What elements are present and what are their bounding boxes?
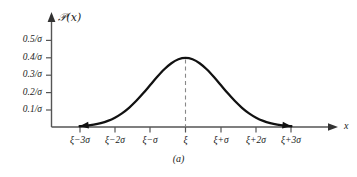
y-tick-label-4: 0.5/σ: [0, 36, 42, 46]
x-axis-title: x: [344, 121, 348, 131]
x-tick-label-2: ξ−σ: [142, 136, 157, 146]
x-axis-ticks: [80, 127, 291, 133]
x-tick-label-3: ξ: [183, 136, 187, 146]
y-axis-ticks: [46, 40, 52, 110]
x-tick-label-6: ξ+3σ: [281, 136, 301, 146]
y-axis-arrowhead: [48, 12, 56, 22]
x-axis-arrowhead: [328, 123, 338, 131]
x-tick-label-5: ξ+2σ: [246, 136, 266, 146]
y-tick-label-0: 0.1/σ: [0, 105, 42, 115]
y-tick-label-1: 0.2/σ: [0, 88, 42, 98]
plot-area: [0, 0, 357, 177]
x-tick-label-4: ξ+σ: [213, 136, 228, 146]
x-tick-label-0: ξ−3σ: [70, 136, 90, 146]
figure-normal-distribution: 𝒫(x) x 0.1/σ 0.2/σ 0.3/σ 0.4/σ 0.5/σ ξ−3…: [0, 0, 357, 177]
y-axis-title: 𝒫(x): [58, 12, 82, 23]
figure-caption: (a): [0, 154, 357, 164]
y-tick-label-3: 0.4/σ: [0, 53, 42, 63]
x-tick-label-1: ξ−2σ: [105, 136, 125, 146]
y-tick-label-2: 0.3/σ: [0, 70, 42, 80]
y-axis-title-text: 𝒫(x): [58, 11, 82, 24]
